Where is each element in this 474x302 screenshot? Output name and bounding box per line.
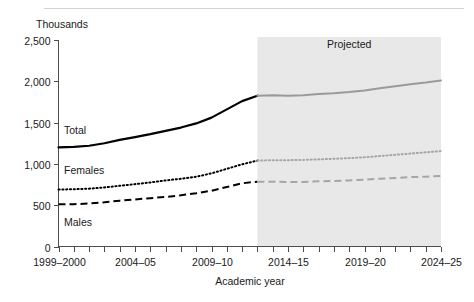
x-axis-ticks (60, 247, 442, 252)
line-chart: Thousands Projected 05001,0001,5002,0002… (0, 0, 474, 302)
y-tick-label: 2,000 (24, 76, 50, 88)
y-axis-ticks (54, 41, 59, 248)
x-axis: 1999–20002004–052009–102014–152019–20202… (33, 247, 462, 268)
series-label-males: Males (64, 216, 92, 228)
y-tick-label: 2,500 (24, 35, 50, 47)
series-line-total-actual (59, 96, 258, 148)
y-axis: 05001,0001,5002,0002,500 (24, 35, 58, 254)
chart-svg: Thousands Projected 05001,0001,5002,0002… (0, 0, 474, 302)
y-axis-unit-label: Thousands (36, 18, 88, 30)
x-axis-title: Academic year (215, 275, 285, 287)
projected-annotation-label: Projected (327, 38, 372, 50)
y-tick-label: 1,000 (24, 159, 50, 171)
x-tick-label: 1999–2000 (33, 256, 86, 268)
y-axis-tick-labels: 05001,0001,5002,0002,500 (24, 35, 50, 254)
series-label-females: Females (64, 164, 104, 176)
x-tick-label: 2019–20 (345, 256, 386, 268)
x-tick-label: 2004–05 (115, 256, 156, 268)
y-tick-label: 1,500 (24, 118, 50, 130)
x-tick-label: 2009–10 (192, 256, 233, 268)
x-axis-tick-labels: 1999–20002004–052009–102014–152019–20202… (33, 256, 462, 268)
projected-region-band (257, 37, 441, 247)
x-tick-label: 2024–25 (421, 256, 462, 268)
x-tick-label: 2014–15 (268, 256, 309, 268)
series-label-total: Total (64, 124, 86, 136)
y-tick-label: 0 (45, 242, 51, 254)
series-line-males-actual (59, 182, 258, 205)
y-tick-label: 500 (33, 200, 51, 212)
